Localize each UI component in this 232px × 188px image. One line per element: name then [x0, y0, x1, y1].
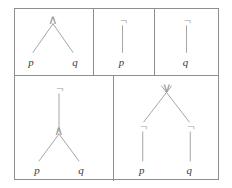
leaf-p: p: [118, 56, 125, 68]
edge-and-to-p: [33, 24, 53, 53]
tree-cell-not-q: ¬ q: [154, 9, 218, 75]
tree-diagram-not-p-or-not-q: ∨ ¬ ¬ p q: [114, 76, 218, 181]
tree-diagram-not-p-and-q: ¬ ∧ p q: [15, 76, 113, 181]
tree-diagram-not-q: ¬ q: [155, 9, 218, 75]
operator-not: ¬: [56, 81, 63, 96]
operator-not-left: ¬: [140, 119, 147, 134]
operator-and: ∧: [48, 13, 58, 27]
edge-and-to-p: [39, 134, 59, 161]
tree-cell-not-p-or-not-q: ∨ ¬ ¬ p q: [113, 76, 218, 181]
leaf-p: p: [33, 164, 40, 176]
edge-and-to-q: [53, 24, 73, 53]
operator-and: ∧: [54, 123, 64, 138]
operator-not: ¬: [184, 14, 191, 28]
leaf-p: p: [138, 164, 145, 176]
operator-not: ¬: [120, 14, 127, 28]
formula-tree-figure: ∧ p q ¬ p ¬ q: [14, 8, 219, 180]
tree-diagram-p-and-q: ∧ p q: [15, 9, 93, 75]
leaf-p: p: [27, 56, 34, 68]
figure-row-top: ∧ p q ¬ p ¬ q: [15, 9, 218, 76]
tree-cell-not-p: ¬ p: [93, 9, 154, 75]
operator-or: ∨: [162, 80, 172, 95]
tree-diagram-not-p: ¬ p: [94, 9, 154, 75]
operator-not-right: ¬: [188, 119, 195, 134]
edge-and-to-q: [59, 134, 79, 161]
leaf-q: q: [183, 56, 189, 68]
tree-cell-p-and-q: ∧ p q: [15, 9, 93, 75]
leaf-q: q: [72, 56, 78, 68]
tree-cell-not-p-and-q: ¬ ∧ p q: [15, 76, 113, 181]
leaf-q: q: [187, 164, 193, 176]
leaf-q: q: [78, 164, 84, 176]
figure-row-bottom: ¬ ∧ p q ∨ ¬ ¬ p q: [15, 76, 218, 181]
